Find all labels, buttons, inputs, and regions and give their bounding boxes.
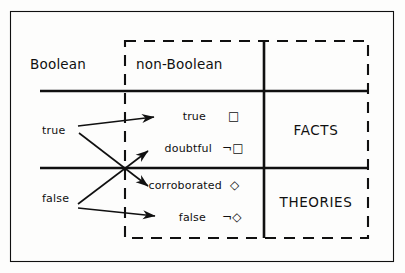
entry-symbol-not-box: ¬□ (222, 141, 244, 155)
entry-symbol-not-diamond: ¬◇ (222, 210, 242, 224)
entry-label-true: true (183, 110, 206, 123)
diagram-figure: Boolean non-Boolean FACTS THEORIES true … (0, 0, 405, 273)
arrow-false-to-false (78, 208, 155, 216)
diagram-canvas: Boolean non-Boolean FACTS THEORIES true … (0, 0, 405, 273)
arrow-true-to-true (78, 117, 154, 126)
boolean-value-false: false (42, 192, 69, 205)
column-header-non-boolean: non-Boolean (136, 56, 223, 72)
entry-symbol-box: □ (228, 109, 240, 123)
row-label-facts: FACTS (294, 122, 339, 138)
entry-symbol-diamond: ◇ (230, 178, 240, 192)
entry-label-corroborated: corroborated (148, 179, 222, 192)
row-label-theories: THEORIES (279, 194, 353, 210)
boolean-value-true: true (42, 124, 65, 137)
entry-label-doubtful: doubtful (165, 142, 212, 155)
column-header-boolean: Boolean (30, 56, 86, 72)
entry-label-false: false (179, 211, 206, 224)
